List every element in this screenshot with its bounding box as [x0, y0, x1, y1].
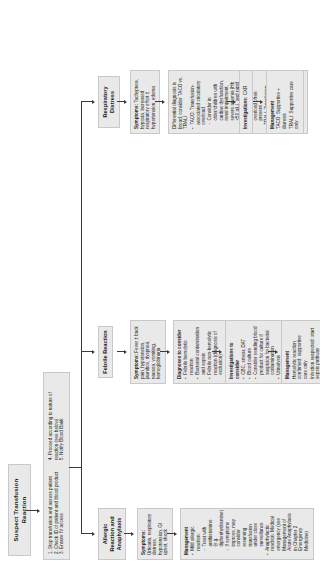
transfusion-reaction-flowchart: Suspect Transfusion Reaction 1. Stop tra…	[0, 0, 307, 564]
inv-febrile-0: CBC, smear, DAT	[241, 339, 246, 375]
diagnoses-label-febrile: Diagnoses to consider	[177, 325, 183, 379]
symptoms-box-febrile: Symptoms: Fever ± back pain, hypotension…	[130, 320, 166, 384]
management-label-allergic: Management	[184, 513, 190, 555]
action-step-5: 5. Notify Blood Bank	[59, 378, 65, 460]
diagnoses-list-febrile: Febrile hemolytic reaction Bacterial con…	[183, 325, 223, 379]
list-item: Anaphylactic reaction: Medical emergency…	[265, 513, 307, 555]
arrow-febrile-hdr-to-sym	[124, 350, 127, 354]
column-header-respiratory: Respiratory Distress	[98, 76, 120, 128]
symptoms-box-allergic: Symptoms: Urticaria, respiratory distres…	[137, 508, 173, 560]
mgmt-resp-0: TACO: Supportive + diuresis	[276, 75, 287, 129]
column-header-respiratory-text: Respiratory Distress	[102, 86, 115, 117]
list-item: Treat with antihistamine (e.g. diphenhyd…	[202, 513, 224, 555]
investigations-label-respiratory: Investigations	[243, 98, 248, 129]
investigations-value-respiratory: CXR	[243, 86, 248, 96]
mgmt-resp-1: TRALI: Supportive care only	[289, 75, 300, 129]
investigations-label-febrile: Investigations to consider	[229, 325, 240, 379]
column-header-allergic-text: Allergic Reaction and Anaphylaxis	[102, 516, 122, 551]
list-item: Febrile hemolytic reaction	[183, 325, 194, 379]
management-label-febrile: Management	[285, 325, 291, 379]
arrow-febrile-dx-to-inv	[219, 350, 222, 354]
column-header-febrile: Febrile Reaction	[98, 326, 113, 378]
mgmt-allergic-0: Mild allergic reaction:	[190, 527, 201, 551]
connector-actions-stem	[69, 467, 81, 468]
arrow-allergic-hdr-to-sym	[131, 532, 134, 536]
list-item: If symptoms improve, may consider resumi…	[225, 513, 264, 555]
symptoms-text-allergic: Urticaria, respiratory distress, hypoten…	[147, 514, 169, 555]
arrow-branch-allergic	[92, 532, 95, 536]
action-step-4: 4. Proceed according to nature of reacti…	[48, 378, 59, 460]
list-item: Mild allergic reaction:	[190, 513, 201, 555]
mgmt-allergic-0-0: Treat with antihistamine (e.g. diphenhyd…	[202, 510, 224, 547]
investigations-box-respiratory: Investigations: CXR	[239, 70, 253, 134]
list-item: Blood culture	[247, 325, 253, 379]
list-item: Consider sending blood product for cultu…	[253, 325, 275, 379]
list-item: TACO: Transfusion-associated circulatory…	[190, 75, 207, 129]
list-item: Bacterial contamination and sepsis	[195, 325, 206, 379]
management-box-respiratory: Management TACO: Supportive + diuresis T…	[266, 70, 304, 134]
action-step-1: 1. Stop transfusion and assess patient	[48, 468, 54, 554]
column-header-allergic: Allergic Reaction and Anaphylaxis	[98, 508, 126, 560]
arrow-branch-febrile	[92, 350, 95, 354]
arrow-febrile-sym-to-dx	[167, 350, 170, 354]
connector-bus	[81, 102, 82, 534]
ddx-resp-taco: TACO: Transfusion-associated circulatory…	[190, 81, 206, 125]
rotated-page-wrapper: Suspect Transfusion Reaction 1. Stop tra…	[0, 0, 307, 564]
flowchart-title-text: Suspect Transfusion Reaction	[12, 479, 27, 542]
symptoms-box-respiratory: Symptoms: Tachypnea, hypoxia, increased …	[130, 70, 160, 134]
arrow-febrile-inv-to-mgmt	[275, 350, 278, 354]
management-list-allergic: Mild allergic reaction: Treat with antih…	[190, 513, 307, 555]
management-label-respiratory: Management	[270, 75, 276, 129]
arrow-title-to-actions	[37, 509, 40, 513]
arrow-resp-ddx-to-inv	[233, 100, 236, 104]
arrow-resp-inv-to-mgmt	[260, 100, 263, 104]
arrow-branch-respiratory	[92, 100, 95, 104]
mgmt-allergic-1: Anaphylactic reaction: Medical emergency…	[265, 513, 307, 551]
column-header-febrile-text: Febrile Reaction	[102, 330, 108, 374]
differential-label-respiratory: Differential diagnosis is broad; conside…	[172, 75, 189, 129]
arrow-allergic-sym-to-mgmt	[174, 532, 177, 536]
dx-febrile-1: Bacterial contamination and sepsis	[195, 327, 206, 375]
mgmt-febrile-0: Hemolytic reaction confirmed: supportive…	[292, 325, 307, 379]
arrow-resp-sym-to-ddx	[162, 100, 165, 104]
immediate-actions-box: 1. Stop transfusion and assess patient 2…	[43, 372, 70, 560]
inv-febrile-1: Blood culture	[247, 348, 252, 375]
action-step-3: 3. Ensure IV access	[59, 468, 65, 554]
management-box-allergic: Management Mild allergic reaction: Treat…	[180, 508, 307, 560]
symptoms-label-febrile: Symptoms	[134, 356, 139, 380]
mgmt-allergic-0-1: If symptoms improve, may consider resumi…	[225, 519, 264, 547]
management-box-febrile: Management Hemolytic reaction confirmed:…	[281, 320, 307, 384]
dx-febrile-0: Febrile hemolytic reaction	[183, 340, 194, 375]
arrow-resp-hdr-to-sym	[124, 100, 127, 104]
list-item: CBC, smear, DAT	[241, 325, 247, 379]
symptoms-label-allergic: Symptoms	[141, 532, 146, 556]
symptoms-label-respiratory: Symptoms	[134, 106, 139, 130]
